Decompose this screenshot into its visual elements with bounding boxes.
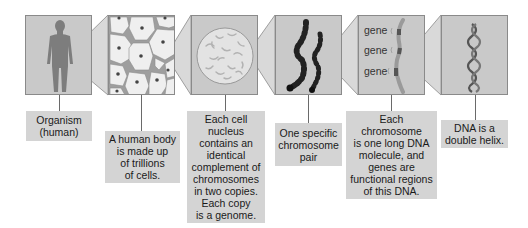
- genes-panel: gene gene gene: [358, 15, 425, 95]
- stem-dna: [475, 95, 476, 120]
- chromosome-pair-panel: [275, 15, 342, 95]
- cells-panel: [108, 15, 175, 95]
- gene-label-2: gene: [364, 44, 387, 56]
- organism-panel: [25, 15, 92, 95]
- dna-double-helix-icon: [442, 16, 508, 95]
- gene-label-1: gene: [364, 24, 387, 36]
- stem-chromosome-pair: [308, 95, 309, 123]
- stem-nucleus: [225, 95, 226, 111]
- label-genes: Each chromosome is one long DNA molecule…: [346, 111, 437, 199]
- stem-cells: [141, 95, 142, 131]
- nucleus-panel: [191, 15, 258, 95]
- label-cells: A human body is made up of trillions of …: [105, 131, 180, 183]
- gene-label-3: gene: [364, 65, 387, 77]
- cell-nucleus-icon: [192, 16, 258, 95]
- label-organism: Organism (human): [26, 111, 92, 141]
- stem-genes: [391, 95, 392, 111]
- label-dna: DNA is a double helix.: [441, 120, 508, 148]
- dna-panel: [441, 15, 508, 95]
- biology-hierarchy-diagram: gene gene gene Organism (human) A human …: [0, 0, 528, 228]
- stem-organism: [59, 95, 60, 111]
- human-silhouette-icon: [26, 16, 92, 95]
- label-chromosome-pair: One specific chromosome pair: [275, 123, 342, 166]
- cell-tissue-icon: [109, 16, 175, 95]
- label-nucleus: Each cell nucleus contains an identical …: [187, 111, 265, 223]
- chromosome-pair-icon: [276, 16, 342, 95]
